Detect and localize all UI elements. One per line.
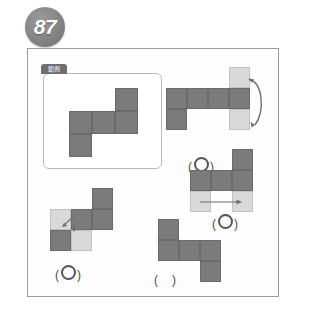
option-bottom-left-cell-r1c0: [50, 209, 71, 230]
reference-shape-panel: [43, 73, 162, 169]
option-top-right-cell-r0c3: [229, 67, 250, 88]
reference-shape-cell-r1c0: [69, 111, 92, 134]
problem-frame: 範例 () () () (): [27, 48, 279, 297]
option-top-right-cell-r1c3: [229, 88, 250, 109]
option-top-right-cell-r2c3: [229, 109, 250, 130]
option-middle-right-cell-r1c2: [232, 170, 253, 191]
option-bottom-left-answer[interactable]: (): [55, 265, 82, 282]
option-bottom-left-cell-r1c1: [71, 209, 92, 230]
answer-close-paren: ): [77, 268, 82, 282]
option-top-right-cell-r2c0: [166, 109, 187, 130]
option-top-right-grid[interactable]: [166, 67, 250, 130]
option-middle-right-cell-r0c2: [232, 149, 253, 170]
reference-shape-cell-r2c0: [69, 134, 92, 157]
option-top-right-cell-r1c0: [166, 88, 187, 109]
option-bottom-left-cell-r0c2: [92, 188, 113, 209]
option-bottom-right-cell-r1c2: [200, 240, 221, 261]
option-top-right-cell-r1c2: [208, 88, 229, 109]
option-top-right-cell-r1c1: [187, 88, 208, 109]
option-bottom-right-cell-r1c0: [158, 240, 179, 261]
option-middle-right-cell-r2c2: [232, 191, 253, 212]
reference-shape-cell-r1c1: [92, 111, 115, 134]
option-bottom-right-cell-r2c2: [200, 261, 221, 282]
option-bottom-right-cell-r1c1: [179, 240, 200, 261]
reference-panel-tab-label: 範例: [41, 64, 67, 74]
reference-shape-cell-r0c2: [115, 88, 138, 111]
option-middle-right-cell-r1c1: [211, 170, 232, 191]
option-bottom-left-cell-r1c2: [92, 209, 113, 230]
reference-shape-cell-r1c2: [115, 111, 138, 134]
answer-circle-mark: [61, 265, 76, 280]
option-middle-right-grid[interactable]: [190, 149, 253, 212]
option-middle-right-cell-r2c0: [190, 191, 211, 212]
answer-open-paren: (: [55, 268, 60, 282]
option-bottom-right-cell-r0c0: [158, 219, 179, 240]
option-middle-right-cell-r1c0: [190, 170, 211, 191]
question-number-badge: 87: [25, 7, 65, 47]
answer-open-paren: (: [154, 273, 159, 287]
answer-close-paren: ): [234, 217, 239, 231]
option-bottom-left-cell-r2c1: [71, 230, 92, 251]
reference-shape-grid: [69, 88, 138, 157]
option-bottom-right-answer[interactable]: (): [154, 273, 177, 287]
answer-close-paren: ): [172, 273, 177, 287]
option-bottom-left-cell-r2c0: [50, 230, 71, 251]
option-bottom-left-grid[interactable]: [50, 188, 113, 251]
question-number-label: 87: [34, 15, 56, 39]
